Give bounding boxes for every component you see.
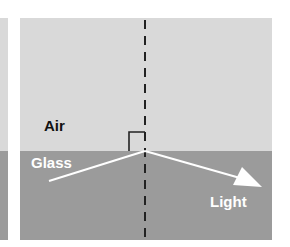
refracted-ray: [145, 151, 240, 178]
right-angle-marker: [129, 132, 145, 151]
ray-arrowhead-icon: [233, 167, 262, 187]
glass-label: Glass: [31, 155, 72, 170]
air-label: Air: [44, 118, 65, 133]
light-label: Light: [210, 194, 247, 209]
